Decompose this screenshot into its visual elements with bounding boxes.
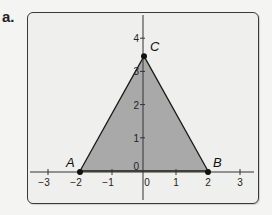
x-tick-label: 1 (173, 177, 179, 188)
point-b (205, 169, 211, 175)
point-c (141, 53, 147, 59)
triangle-abc (80, 56, 208, 171)
point-label-b: B (213, 155, 222, 170)
point-a (77, 169, 83, 175)
x-tick-label: 0 (144, 177, 150, 188)
x-tick-label: 3 (237, 177, 243, 188)
x-tick-label: −2 (70, 177, 82, 188)
y-tick-label: 1 (133, 133, 139, 144)
point-label-c: C (150, 39, 160, 54)
x-tick-label: 2 (205, 177, 211, 188)
x-tick-label: −1 (102, 177, 114, 188)
triangle-layer (80, 56, 208, 171)
y-tick-label: 3 (133, 66, 139, 77)
x-tick-label: −3 (38, 177, 50, 188)
y-tick-label: 2 (133, 100, 139, 111)
coordinate-plane: −3−2−1012301234 ABC (0, 0, 272, 215)
point-label-a: A (65, 155, 75, 170)
y-tick-label: 0 (133, 161, 139, 172)
y-tick-label: 4 (133, 33, 139, 44)
